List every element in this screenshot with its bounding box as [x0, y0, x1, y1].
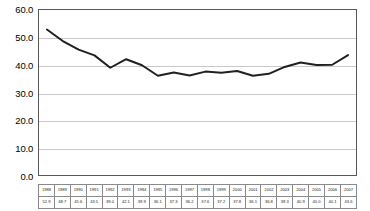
- table-cell-value: 36.2: [182, 197, 198, 209]
- table-cell-value: 40.0: [309, 197, 325, 209]
- y-axis: 0.010.020.030.040.050.060.0: [0, 0, 36, 176]
- y-tick-label: 30.0: [15, 87, 33, 98]
- table-cell-value: 39.0: [102, 197, 118, 209]
- y-tick-label: 0.0: [20, 171, 33, 182]
- table-cell-value: 40.9: [293, 197, 309, 209]
- table-cell-year: 2005: [309, 185, 325, 197]
- table-cell-value: 37.3: [166, 197, 182, 209]
- table-cell-value: 43.6: [340, 197, 356, 209]
- table-cell-year: 1996: [166, 185, 182, 197]
- table-cell-value: 39.3: [277, 197, 293, 209]
- plot-area: [38, 9, 357, 176]
- y-tick-label: 40.0: [15, 59, 33, 70]
- table-cell-year: 2003: [277, 185, 293, 197]
- table-cell-value: 37.6: [197, 197, 213, 209]
- table-cell-year: 2001: [245, 185, 261, 197]
- table-cell-year: 1994: [134, 185, 150, 197]
- table-cell-value: 40.1: [325, 197, 341, 209]
- table-cell-value: 37.2: [213, 197, 229, 209]
- y-tick-label: 60.0: [15, 4, 33, 15]
- table-cell-value: 39.9: [134, 197, 150, 209]
- y-tick-label: 50.0: [15, 31, 33, 42]
- table-cell-year: 1989: [54, 185, 70, 197]
- table-cell-year: 1990: [70, 185, 86, 197]
- table-row-years: 1988198919901991199219931994199519961997…: [39, 185, 357, 197]
- line-chart: 0.010.020.030.040.050.060.0 198819891990…: [0, 0, 370, 211]
- table-cell-year: 1991: [86, 185, 102, 197]
- table-cell-value: 52.9: [39, 197, 55, 209]
- table-cell-year: 1988: [39, 185, 55, 197]
- y-tick-label: 10.0: [15, 143, 33, 154]
- y-tick-label: 20.0: [15, 115, 33, 126]
- table-cell-value: 36.1: [150, 197, 166, 209]
- table-cell-year: 2002: [261, 185, 277, 197]
- table-cell-year: 2000: [229, 185, 245, 197]
- table-cell-value: 48.7: [54, 197, 70, 209]
- table-cell-year: 2006: [325, 185, 341, 197]
- table-cell-value: 42.1: [118, 197, 134, 209]
- table-cell-year: 1992: [102, 185, 118, 197]
- table-cell-year: 2007: [340, 185, 356, 197]
- table-cell-value: 45.6: [70, 197, 86, 209]
- table-cell-value: 37.8: [229, 197, 245, 209]
- series-line: [39, 10, 356, 175]
- table-cell-year: 1999: [213, 185, 229, 197]
- table-cell-value: 36.8: [261, 197, 277, 209]
- table-cell-value: 43.5: [86, 197, 102, 209]
- table-row-values: 52.948.745.643.539.042.139.936.137.336.2…: [39, 197, 357, 209]
- table-cell-year: 1995: [150, 185, 166, 197]
- table-cell-year: 2004: [293, 185, 309, 197]
- series-polyline: [47, 30, 348, 76]
- table-cell-year: 1997: [182, 185, 198, 197]
- table-cell-year: 1993: [118, 185, 134, 197]
- table-cell-value: 36.1: [245, 197, 261, 209]
- table-cell-year: 1998: [197, 185, 213, 197]
- data-table: 1988198919901991199219931994199519961997…: [38, 184, 357, 209]
